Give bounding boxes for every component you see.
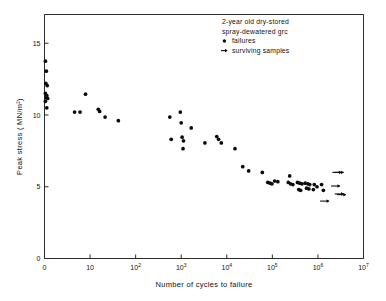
figure-container: 010102103104105106107 051015 2-year old … [0,0,386,301]
legend: 2-year old dry-storedspray-dewatered grc… [221,18,290,55]
data-point [45,84,49,88]
data-point [217,138,221,142]
data-point [299,188,303,192]
data-point [270,182,274,186]
data-point [320,183,324,187]
x-axis-ticks: 010102103104105106107 [43,255,369,271]
data-point [179,121,183,125]
x-tick-label: 104 [221,262,232,271]
legend-entry-label: surviving samples [232,47,290,55]
y-tick-label: 0 [37,255,41,262]
legend-annotation: spray-dewatered grc [222,28,288,36]
data-point [260,171,264,175]
axis-titles: Number of cycles to failurePeak stress (… [15,98,252,289]
y-axis-title: Peak stress ( MN/m²) [15,98,24,175]
data-point [44,99,48,103]
data-point [308,183,312,187]
data-point [241,165,245,169]
data-point [45,106,49,110]
data-point [273,179,277,183]
data-point [322,188,326,192]
data-point [44,69,48,73]
y-axis-ticks: 051015 [33,40,49,262]
data-point [78,110,82,114]
x-tick-label: 106 [313,262,324,271]
legend-arrow-head-icon [225,49,228,53]
survivor-arrow-head [343,193,346,197]
data-point [73,110,77,114]
data-point [46,97,50,101]
legend-dot-icon [223,39,226,42]
data-point [288,174,292,178]
data-point [84,92,88,96]
data-point [307,187,311,191]
survivor-arrow-head [327,199,330,203]
data-point [178,110,182,114]
x-tick-label: 10 [86,264,94,271]
plot-border [45,15,364,259]
legend-entry-label: failures [232,37,256,44]
data-points-layer [44,59,326,192]
data-point [300,182,304,186]
survivor-arrow-head [341,171,344,175]
data-point [44,59,48,63]
y-tick-label: 10 [33,112,41,119]
data-point [189,126,193,130]
data-point [116,119,120,123]
data-point [291,183,295,187]
data-point [219,141,223,145]
data-point [315,185,319,189]
y-tick-label: 15 [33,40,41,47]
x-tick-label: 103 [176,262,187,271]
x-tick-label: 0 [43,264,47,271]
surviving-arrows-layer [320,171,346,203]
data-point [98,110,102,114]
scatter-plot: 010102103104105106107 051015 2-year old … [0,0,386,301]
data-point [169,138,173,142]
data-point [168,115,172,119]
plot-frame [45,15,364,259]
data-point [247,169,251,173]
data-point [103,115,107,119]
data-point [312,188,316,192]
data-point [182,139,186,143]
x-axis-title: Number of cycles to failure [156,280,253,289]
data-point [276,180,280,184]
x-tick-label: 102 [130,262,141,271]
x-tick-label: 107 [358,262,369,271]
x-tick-label: 105 [267,262,278,271]
data-point [180,135,184,139]
y-tick-label: 5 [37,183,41,190]
survivor-arrow-head [337,184,340,188]
data-point [203,141,207,145]
legend-annotation: 2-year old dry-stored [222,18,289,26]
data-point [233,147,237,151]
data-point [181,147,185,151]
